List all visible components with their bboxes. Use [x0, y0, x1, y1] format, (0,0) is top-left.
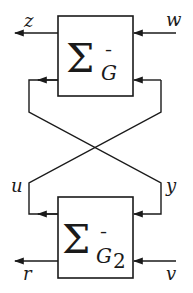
label-v: v: [166, 263, 176, 284]
block-diagram: Σ G ¯ Σ G ¯ 2 z w u y r v: [0, 0, 193, 293]
u-feedback-wire-path: [29, 80, 161, 214]
label-w: w: [166, 9, 182, 30]
label-u: u: [11, 175, 23, 196]
bottom-block-bar-accent: ¯: [99, 229, 108, 250]
bottom-system-block: Σ G ¯ 2: [58, 197, 133, 278]
label-z: z: [23, 10, 34, 31]
bottom-block-subscript-index: 2: [113, 249, 126, 273]
label-y: y: [165, 175, 177, 196]
top-block-bar-accent: ¯: [104, 47, 113, 68]
label-r: r: [23, 263, 33, 284]
top-block-sigma: Σ: [66, 35, 94, 81]
bottom-block-sigma: Σ: [62, 216, 90, 262]
top-system-block: Σ G ¯: [58, 16, 133, 96]
